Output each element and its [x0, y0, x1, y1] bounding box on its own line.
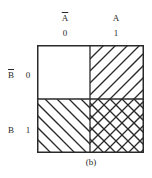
cell-a1-b0-forward-hatch [90, 45, 144, 103]
column-value-0: 0 [55, 28, 75, 38]
row-header-b: B [6, 125, 16, 135]
cell-a1-b1-cross-hatch [50, 99, 144, 153]
column-value-1: 1 [106, 28, 126, 38]
row-header-b-bar: B [6, 70, 16, 80]
figure-caption: (b) [80, 157, 102, 167]
column-header-a: A [106, 13, 126, 23]
row-value-0: 0 [24, 70, 32, 80]
karnaugh-map-grid [37, 45, 144, 153]
row-value-1: 1 [24, 125, 32, 135]
cell-a0-b0 [37, 45, 90, 99]
column-header-a-bar: A [55, 13, 75, 23]
